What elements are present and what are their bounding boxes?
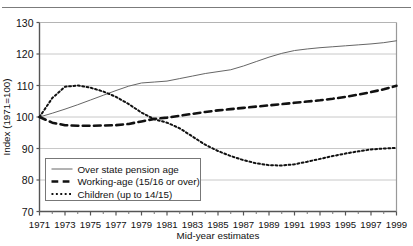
y-axis-ticks: 708090100110120130 bbox=[16, 17, 40, 218]
x-tick-label: 1997 bbox=[360, 219, 381, 230]
y-tick-label: 100 bbox=[16, 111, 34, 123]
x-tick-label: 1985 bbox=[207, 219, 228, 230]
line-chart: 7080901001101201301971197319751977197919… bbox=[0, 0, 413, 246]
y-tick-label: 70 bbox=[22, 206, 34, 218]
series-line-0 bbox=[40, 41, 397, 117]
legend-label-2: Children (up to 14/15) bbox=[78, 189, 173, 200]
x-tick-label: 1995 bbox=[335, 219, 356, 230]
legend-label-1: Working-age (15/16 or over) bbox=[78, 176, 200, 187]
x-tick-label: 1975 bbox=[80, 219, 101, 230]
y-tick-label: 120 bbox=[16, 48, 34, 60]
y-tick-label: 130 bbox=[16, 17, 34, 29]
y-tick-label: 110 bbox=[17, 80, 34, 92]
legend-label-0: Over state pension age bbox=[78, 164, 180, 175]
x-tick-label: 1971 bbox=[29, 219, 50, 230]
data-series-group bbox=[40, 41, 397, 166]
x-tick-label: 1977 bbox=[105, 219, 126, 230]
chart-legend: Over state pension ageWorking-age (15/16… bbox=[46, 159, 201, 201]
chart-figure: 7080901001101201301971197319751977197919… bbox=[0, 0, 413, 246]
x-tick-label: 1989 bbox=[258, 219, 279, 230]
y-tick-label: 80 bbox=[22, 174, 34, 186]
y-axis-title: Index (1971=100) bbox=[1, 78, 12, 155]
x-tick-label: 1983 bbox=[182, 219, 203, 230]
y-tick-label: 90 bbox=[22, 143, 34, 155]
x-tick-label: 1981 bbox=[156, 219, 177, 230]
x-tick-label: 1979 bbox=[131, 219, 152, 230]
series-line-1 bbox=[40, 86, 397, 126]
x-tick-label: 1973 bbox=[54, 219, 75, 230]
x-axis-ticks: 1971197319751977197919811983198519871989… bbox=[29, 212, 407, 230]
x-tick-label: 1999 bbox=[386, 219, 407, 230]
x-axis-title: Mid-year estimates bbox=[177, 230, 260, 241]
x-tick-label: 1993 bbox=[309, 219, 330, 230]
x-tick-label: 1991 bbox=[284, 219, 305, 230]
x-tick-label: 1987 bbox=[233, 219, 254, 230]
